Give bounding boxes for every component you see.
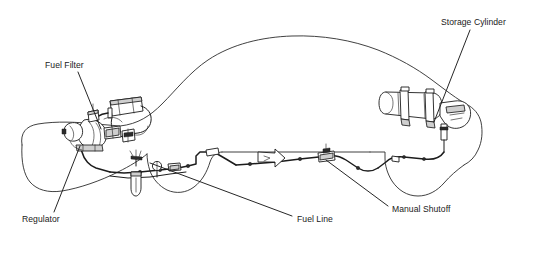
- callout-manual-shutoff: Manual Shutoff: [326, 160, 451, 214]
- cylinder-strap-1: [400, 87, 410, 126]
- label-manual-shutoff: Manual Shutoff: [392, 204, 451, 214]
- fuel-line-support-bracket: [130, 150, 142, 196]
- leader-line-fuel-line: [150, 163, 292, 216]
- callout-fuel-line: Fuel Line: [150, 163, 333, 224]
- cylinder-strap-2: [425, 89, 435, 128]
- regulator-component: [62, 104, 106, 151]
- fuel-filter-component: [108, 97, 143, 118]
- label-fuel-filter: Fuel Filter: [45, 60, 84, 70]
- diagram-canvas: Fuel Filter Storage Cylinder Regulator F…: [0, 0, 544, 256]
- regulator-outlet-coupling: [104, 126, 121, 139]
- storage-cylinder-assembly: [378, 87, 471, 168]
- leader-line-regulator: [54, 146, 80, 212]
- callout-regulator: Regulator: [22, 146, 80, 224]
- label-storage-cylinder: Storage Cylinder: [441, 17, 506, 27]
- fuel-system-diagram: Fuel Filter Storage Cylinder Regulator F…: [0, 0, 544, 256]
- manual-shutoff-valve: [318, 144, 335, 162]
- engine-bay-assembly: [62, 97, 151, 151]
- lock-off-valve: [122, 129, 135, 142]
- label-fuel-line: Fuel Line: [297, 214, 333, 224]
- label-regulator: Regulator: [22, 214, 60, 224]
